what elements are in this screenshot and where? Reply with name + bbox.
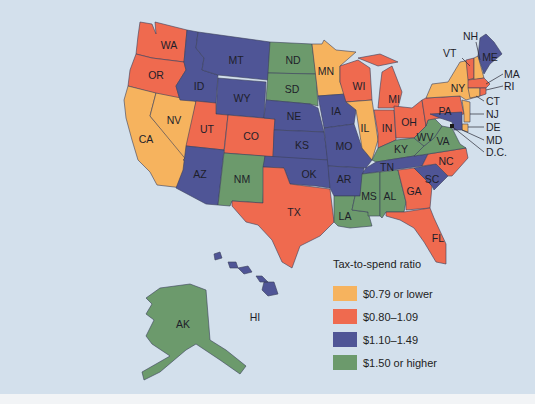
label-ca: CA <box>139 133 154 145</box>
label-sc: SC <box>425 173 440 185</box>
label-ny: NY <box>451 82 466 94</box>
label-oh: OH <box>401 116 417 128</box>
label-de: DE <box>486 121 501 133</box>
label-dc: D.C. <box>486 146 507 158</box>
leader-ct <box>476 96 484 101</box>
label-hi: HI <box>250 311 261 323</box>
label-ms: MS <box>361 190 377 202</box>
label-wa: WA <box>161 39 178 51</box>
label-mn: MN <box>318 65 334 77</box>
label-ky: KY <box>394 143 408 155</box>
legend-swatch <box>333 355 357 370</box>
label-ia: IA <box>331 105 341 117</box>
label-ga: GA <box>406 185 421 197</box>
bottom-strip <box>0 394 535 404</box>
label-nd: ND <box>285 54 301 66</box>
label-tx: TX <box>287 206 300 218</box>
legend-item: $1.50 or higher <box>333 351 513 374</box>
legend-item: $1.10–1.49 <box>333 328 513 351</box>
label-pa: PA <box>438 105 451 117</box>
label-fl: FL <box>432 232 444 244</box>
label-ut: UT <box>200 123 215 135</box>
legend-title: Tax-to-spend ratio <box>333 258 513 270</box>
label-me: ME <box>482 51 498 63</box>
state-ct[interactable] <box>468 88 480 98</box>
legend-label: $1.50 or higher <box>363 357 437 369</box>
state-hi[interactable] <box>214 252 278 296</box>
label-co: CO <box>243 130 259 142</box>
legend-swatch <box>333 309 357 324</box>
label-md: MD <box>486 134 503 146</box>
legend-label: $0.79 or lower <box>363 288 433 300</box>
state-ak[interactable] <box>142 284 246 380</box>
legend-item: $0.80–1.09 <box>333 305 513 328</box>
label-ne: NE <box>287 110 302 122</box>
label-nc: NC <box>438 155 454 167</box>
label-nv: NV <box>167 114 182 126</box>
label-ks: KS <box>295 139 309 151</box>
label-sd: SD <box>285 83 300 95</box>
label-nm: NM <box>234 173 250 185</box>
state-ma[interactable] <box>468 78 490 88</box>
leader-ma <box>486 74 503 84</box>
label-nj: NJ <box>486 108 499 120</box>
label-in: IN <box>382 122 393 134</box>
label-ma: MA <box>504 68 520 80</box>
label-wi: WI <box>353 80 366 92</box>
label-ar: AR <box>337 173 352 185</box>
label-ak: AK <box>176 318 190 330</box>
label-wv: WV <box>417 131 434 143</box>
label-id: ID <box>194 80 205 92</box>
label-ri: RI <box>504 80 515 92</box>
label-ct: CT <box>486 95 501 107</box>
label-tn: TN <box>380 161 394 173</box>
label-or: OR <box>148 69 164 81</box>
label-mo: MO <box>336 140 353 152</box>
label-az: AZ <box>193 168 207 180</box>
state-de[interactable] <box>462 124 468 132</box>
legend-label: $0.80–1.09 <box>363 311 418 323</box>
label-nh: NH <box>463 30 478 42</box>
leader-ri <box>486 86 503 90</box>
label-ok: OK <box>301 168 316 180</box>
label-va: VA <box>436 135 449 147</box>
label-mt: MT <box>228 54 244 66</box>
leader-md <box>462 130 484 140</box>
legend-swatch <box>333 286 357 301</box>
legend-swatch <box>333 332 357 347</box>
label-wy: WY <box>234 92 251 104</box>
state-dc[interactable] <box>450 124 454 128</box>
label-mi: MI <box>388 93 400 105</box>
legend: Tax-to-spend ratio $0.79 or lower $0.80–… <box>333 258 513 374</box>
legend-label: $1.10–1.49 <box>363 334 418 346</box>
label-vt: VT <box>443 47 457 59</box>
label-al: AL <box>384 190 397 202</box>
legend-item: $0.79 or lower <box>333 282 513 305</box>
label-il: IL <box>361 122 370 134</box>
label-la: LA <box>339 210 352 222</box>
